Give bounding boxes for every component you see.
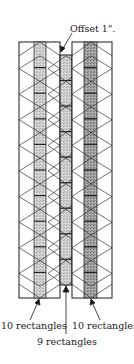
center-count-label: 9 rectangles bbox=[37, 337, 97, 347]
right-count-label: 10 rectangles bbox=[72, 321, 134, 331]
right-count-arrow bbox=[92, 302, 100, 320]
left-strip bbox=[19, 42, 60, 298]
offset-label: Offset 1". bbox=[70, 24, 115, 34]
quilt-diagram bbox=[0, 0, 134, 364]
left-count-arrow bbox=[30, 302, 38, 320]
left-count-label: 10 rectangles bbox=[1, 321, 67, 331]
right-strip bbox=[72, 42, 112, 298]
